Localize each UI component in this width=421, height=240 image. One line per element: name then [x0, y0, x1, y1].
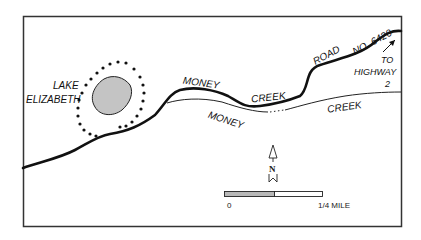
- scale-bar-filled: [225, 192, 275, 197]
- north-label: N: [269, 164, 276, 174]
- road-label-number: NO. 6420: [351, 27, 394, 57]
- creek-label-money: MONEY: [207, 109, 247, 131]
- highway-label-number: 2: [384, 79, 390, 89]
- scale-end-label: 1/4 MILE: [318, 201, 350, 210]
- highway-label-to: TO: [381, 55, 393, 65]
- highway-label-name: HIGHWAY: [354, 67, 397, 77]
- scale-bar-empty: [275, 192, 323, 197]
- lake-label-line2: ELIZABETH: [26, 94, 81, 105]
- creek-dashed: [270, 110, 284, 112]
- creek-label-creek: CREEK: [327, 99, 364, 115]
- map-frame: [24, 17, 402, 227]
- scale-start-label: 0: [227, 201, 232, 210]
- map: LAKE ELIZABETH MONEY CREEK ROAD NO. 6420…: [0, 0, 421, 240]
- lake-label-line1: LAKE: [53, 80, 79, 91]
- lake: [92, 77, 131, 115]
